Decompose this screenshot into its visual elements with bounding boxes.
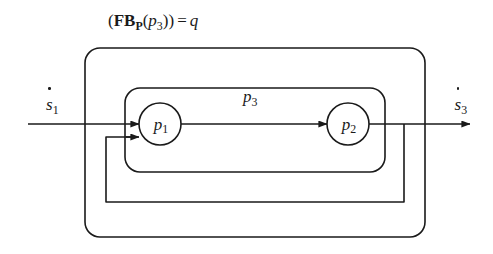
formula-equals: = xyxy=(174,11,190,30)
node-p2-subscript: 2 xyxy=(350,122,356,136)
node-p2-label: p2 xyxy=(342,115,356,138)
outer-box xyxy=(85,48,425,237)
inner-box-label: p3 xyxy=(243,88,257,108)
inner-box-label-subscript: 3 xyxy=(252,95,258,109)
block-diagram xyxy=(0,0,493,254)
formula-operator: FB xyxy=(114,11,136,30)
input-signal-subscript: 1 xyxy=(53,103,59,117)
output-signal-subscript: 3 xyxy=(461,103,467,117)
node-p1-label: p1 xyxy=(154,115,168,138)
inner-box-label-base: p xyxy=(243,87,252,106)
node-p1-subscript: 1 xyxy=(162,122,168,136)
node-p2-base: p xyxy=(342,115,351,134)
formula-result: q xyxy=(190,11,199,30)
formula-operator-subscript: P xyxy=(135,19,142,33)
output-signal-base: s xyxy=(455,96,462,113)
input-signal-label: s1 xyxy=(46,96,59,116)
input-signal-base: s xyxy=(46,96,53,113)
output-signal-label: s3 xyxy=(455,96,468,116)
formula-argument: p xyxy=(148,11,157,30)
figure-canvas: (FBP(p3))=q s1 s3 p3 p1 p2 xyxy=(0,0,493,254)
node-p1-base: p xyxy=(154,115,163,134)
outer-box-label: (FBP(p3))=q xyxy=(108,12,198,32)
